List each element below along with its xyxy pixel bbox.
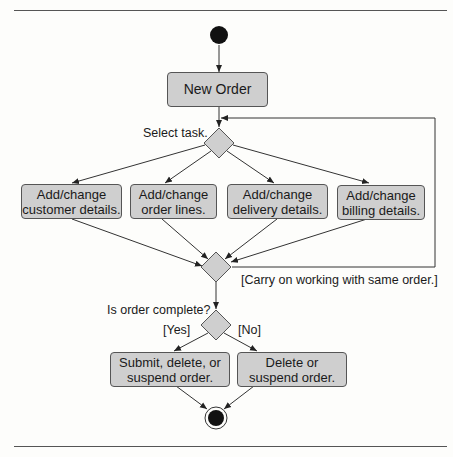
edge-select-to-delivery	[227, 151, 274, 183]
diagram-canvas	[0, 0, 453, 457]
label-no: [No]	[238, 323, 261, 337]
edge-delete-to-final	[224, 386, 254, 409]
label-select-task: Select task.	[143, 126, 208, 140]
label-carry-on: [Carry on working with same order.]	[241, 273, 438, 287]
activity-order-lines: Add/change order lines.	[130, 184, 217, 219]
activity-submit-order: Submit, delete, or suspend order.	[110, 352, 230, 387]
activity-delivery-details: Add/change delivery details.	[227, 184, 328, 219]
edge-select-to-customer	[72, 145, 205, 183]
activity-delete-order: Delete or suspend order.	[237, 352, 347, 387]
label-yes: [Yes]	[163, 323, 190, 337]
final-node	[208, 410, 224, 426]
edge-billing-to-merge	[231, 219, 367, 262]
activity-new-order: New Order	[167, 72, 268, 107]
edge-submit-to-final	[176, 386, 207, 409]
activity-billing-details: Add/change billing details.	[337, 185, 425, 220]
initial-node	[210, 26, 228, 44]
edge-order-lines-to-merge	[162, 219, 208, 259]
edge-select-to-billing	[233, 145, 369, 183]
decision-select-task	[204, 128, 234, 158]
edge-select-to-order-lines	[165, 151, 211, 183]
label-is-order-complete: Is order complete?	[107, 303, 211, 317]
edge-delivery-to-merge	[225, 219, 277, 259]
edge-customer-to-merge	[72, 219, 202, 266]
activity-customer-details: Add/change customer details.	[21, 184, 122, 219]
